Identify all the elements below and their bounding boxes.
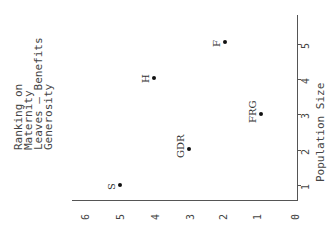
point-label-s: S [106,183,117,190]
population-tick-5: 5 [300,43,311,49]
population-axis-line [297,15,298,201]
data-point-s [118,183,122,187]
data-point-gdr [187,147,191,151]
ranking-tick-6: 6 [80,214,91,220]
point-label-frg: FRG [247,101,258,123]
population-tick-1: 1 [300,184,311,190]
ranking-tick-1: 1 [252,214,263,220]
population-tick-2: 2 [300,149,311,155]
x-axis-label: Population Size [316,83,326,182]
data-point-f [223,40,227,44]
population-tick-3: 3 [300,113,311,119]
ranking-tick-3: 3 [185,214,196,220]
ranking-tick-2: 2 [218,214,229,220]
point-label-h: H [140,74,151,83]
y-axis-label-line: Generosity [44,37,54,150]
ranking-axis-line [72,200,298,201]
point-label-gdr: GDR [175,134,186,158]
y-axis-label: Ranking on Maternity Leaves – Benefits G… [14,37,54,150]
ranking-tick-4: 4 [150,214,161,220]
chart: Ranking on Maternity Leaves – Benefits G… [0,0,333,242]
population-tick-4: 4 [300,78,311,84]
point-label-f: F [211,40,222,47]
data-point-frg [259,112,263,116]
data-point-h [152,76,156,80]
ranking-tick-5: 5 [115,214,126,220]
ranking-tick-0: 0 [290,214,301,220]
